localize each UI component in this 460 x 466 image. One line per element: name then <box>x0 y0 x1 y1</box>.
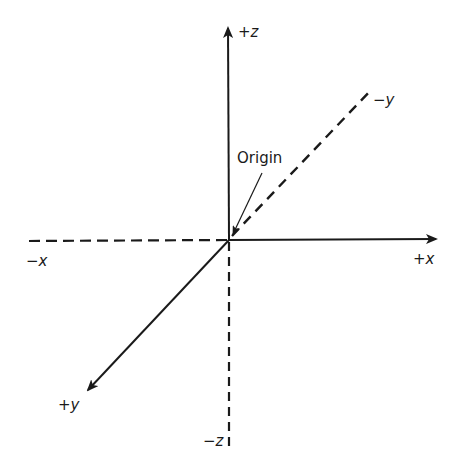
label-positive-y: +y <box>58 398 79 413</box>
label-negative-x-var: x <box>39 252 48 270</box>
label-positive-z-var: z <box>251 23 259 41</box>
positive-z-axis <box>228 28 229 240</box>
label-negative-y-sign: − <box>373 91 386 109</box>
label-positive-x: +x <box>413 252 434 267</box>
label-positive-x-var: x <box>426 250 435 268</box>
label-negative-z: −z <box>203 434 223 449</box>
positive-x-axis <box>229 239 436 240</box>
positive-y-axis <box>88 240 229 390</box>
negative-x-axis <box>26 240 227 241</box>
label-negative-z-sign: − <box>203 432 216 450</box>
label-positive-y-sign: + <box>58 396 71 414</box>
label-positive-z-sign: + <box>238 23 251 41</box>
label-positive-z: +z <box>238 25 258 40</box>
label-negative-x: −x <box>26 254 47 269</box>
label-negative-y: −y <box>373 93 394 108</box>
origin-pointer-arrow <box>233 173 262 234</box>
origin-label: Origin <box>237 151 282 166</box>
label-positive-x-sign: + <box>413 250 426 268</box>
label-positive-y-var: y <box>71 396 80 414</box>
label-negative-y-var: y <box>386 91 395 109</box>
label-negative-x-sign: − <box>26 252 39 270</box>
label-negative-z-var: z <box>216 432 224 450</box>
